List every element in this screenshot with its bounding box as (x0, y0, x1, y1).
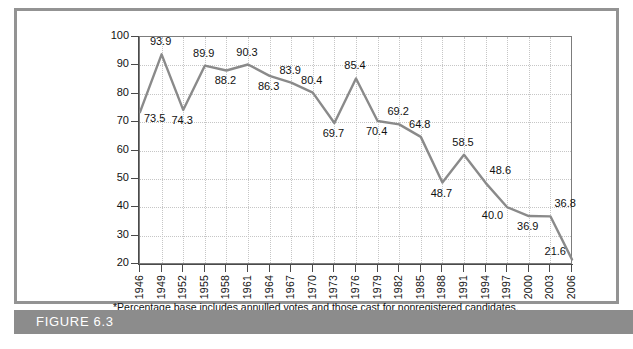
x-axis-tick-label: 1973 (327, 275, 339, 299)
data-point-value-label: 48.7 (428, 188, 454, 199)
x-axis-tick (161, 265, 162, 272)
y-axis-tick (131, 206, 139, 207)
data-point-value-label: 80.4 (299, 75, 325, 86)
figure-screenshot: Percentage of Total Voters* 100908070605… (0, 0, 633, 349)
y-axis-tick-label: 80 (101, 87, 129, 98)
y-axis-tick (131, 93, 139, 94)
y-axis-tick-label: 40 (101, 200, 129, 211)
x-axis-tick-label: 1988 (435, 275, 447, 299)
y-axis-tick-label: 60 (101, 144, 129, 155)
x-axis-tick-label: 1955 (198, 275, 210, 299)
x-axis-tick-label: 1985 (414, 275, 426, 299)
y-axis-tick-value: 100 (103, 30, 129, 41)
y-axis-tick-label: 50 (101, 172, 129, 183)
x-axis-tick-label: 1982 (392, 275, 404, 299)
data-point-value-label: 58.5 (450, 137, 476, 148)
x-axis-tick-label: 1979 (371, 275, 383, 299)
x-axis-tick-label: 1970 (306, 275, 318, 299)
y-axis-tick-label: 20 (101, 257, 129, 268)
x-axis-tick (225, 265, 226, 272)
x-axis-tick (441, 265, 442, 272)
x-axis-tick (290, 265, 291, 272)
y-axis-tick-value: 90 (103, 58, 129, 69)
x-axis-tick-label: 1952 (176, 275, 188, 299)
data-point-value-label: 90.3 (234, 47, 260, 58)
x-axis-tick (549, 265, 550, 272)
data-point-value-label: 70.4 (364, 126, 390, 137)
x-axis-tick (485, 265, 486, 272)
x-axis-tick (398, 265, 399, 272)
x-axis-tick (139, 265, 140, 272)
y-axis-tick-value: 80 (103, 87, 129, 98)
y-axis-tick (131, 150, 139, 151)
y-axis-line (138, 36, 139, 265)
figure-number-label: FIGURE 6.3 (36, 314, 114, 329)
data-point-value-label: 85.4 (342, 60, 368, 71)
x-axis-tick-label: 2003 (543, 275, 555, 299)
data-point-value-label: 93.9 (148, 36, 174, 47)
x-axis-tick (377, 265, 378, 272)
x-axis-tick (204, 265, 205, 272)
y-axis-tick (131, 64, 139, 65)
y-axis-title: Percentage of Total Voters* (0, 37, 75, 51)
data-point-value-label: 74.3 (169, 115, 195, 126)
y-axis-tick-label: 70 (101, 115, 129, 126)
data-point-value-label: 88.2 (212, 75, 238, 86)
figure-panel: Percentage of Total Voters* 100908070605… (14, 8, 619, 304)
figure-caption-bar: FIGURE 6.3 (14, 310, 633, 334)
y-axis-tick (131, 263, 139, 264)
y-axis-tick-value: 20 (103, 257, 129, 268)
y-axis-tick-value: 70 (103, 115, 129, 126)
x-axis-tick (528, 265, 529, 272)
data-point-value-label: 73.5 (144, 113, 165, 124)
x-axis-tick-label: 1994 (479, 275, 491, 299)
x-axis-tick-label: 2006 (565, 275, 577, 299)
y-axis-tick (131, 178, 139, 179)
data-point-value-label: 69.2 (385, 106, 411, 117)
x-axis-tick (247, 265, 248, 272)
series-polyline (140, 54, 572, 259)
x-axis-tick-label: 1946 (133, 275, 145, 299)
x-axis-tick-label: 1958 (219, 275, 231, 299)
x-axis-tick (182, 265, 183, 272)
x-axis-tick-label: 1967 (284, 275, 296, 299)
y-axis-tick-label: 90 (101, 58, 129, 69)
x-axis-tick-label: 1949 (155, 275, 167, 299)
x-axis-tick-label: 1976 (349, 275, 361, 299)
y-axis-tick-label: 100 (101, 30, 129, 41)
x-axis-tick (333, 265, 334, 272)
y-axis-tick-value: 60 (103, 144, 129, 155)
x-axis-tick (355, 265, 356, 272)
x-axis-tick (463, 265, 464, 272)
x-axis-tick-label: 1991 (457, 275, 469, 299)
x-axis-tick-label: 1964 (263, 275, 275, 299)
x-axis-tick (312, 265, 313, 272)
y-axis-tick (131, 121, 139, 122)
x-axis-tick (269, 265, 270, 272)
data-point-value-label: 21.6 (540, 246, 566, 257)
data-point-value-label: 86.3 (256, 81, 282, 92)
data-point-value-label: 36.9 (515, 221, 541, 232)
data-point-value-label: 48.6 (490, 165, 511, 176)
data-point-value-label: 40.0 (477, 210, 503, 221)
data-point-value-label: 64.8 (407, 119, 433, 130)
data-point-value-label: 89.9 (191, 48, 217, 59)
y-axis-tick-value: 30 (103, 229, 129, 240)
x-axis-tick-label: 2000 (522, 275, 534, 299)
x-axis-tick (506, 265, 507, 272)
data-point-value-label: 69.7 (320, 128, 346, 139)
y-axis-tick (131, 36, 139, 37)
x-axis-tick-label: 1997 (500, 275, 512, 299)
y-axis-tick-label: 30 (101, 229, 129, 240)
x-axis-tick (420, 265, 421, 272)
x-axis-tick (571, 265, 572, 272)
x-axis-tick-label: 1961 (241, 275, 253, 299)
y-axis-tick-value: 50 (103, 172, 129, 183)
y-axis-tick (131, 235, 139, 236)
y-axis-tick-value: 40 (103, 200, 129, 211)
data-point-value-label: 36.8 (554, 198, 575, 209)
